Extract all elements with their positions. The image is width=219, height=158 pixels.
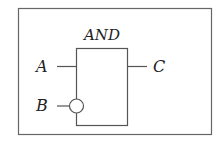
- input-a-label: A: [34, 57, 48, 76]
- inversion-bubble-icon: [70, 99, 84, 113]
- logic-diagram: AND A B C: [0, 0, 219, 158]
- input-b-label: B: [35, 96, 48, 115]
- and-gate-body: [77, 49, 128, 126]
- output-c-label: C: [153, 57, 165, 76]
- gate-label: AND: [82, 26, 120, 44]
